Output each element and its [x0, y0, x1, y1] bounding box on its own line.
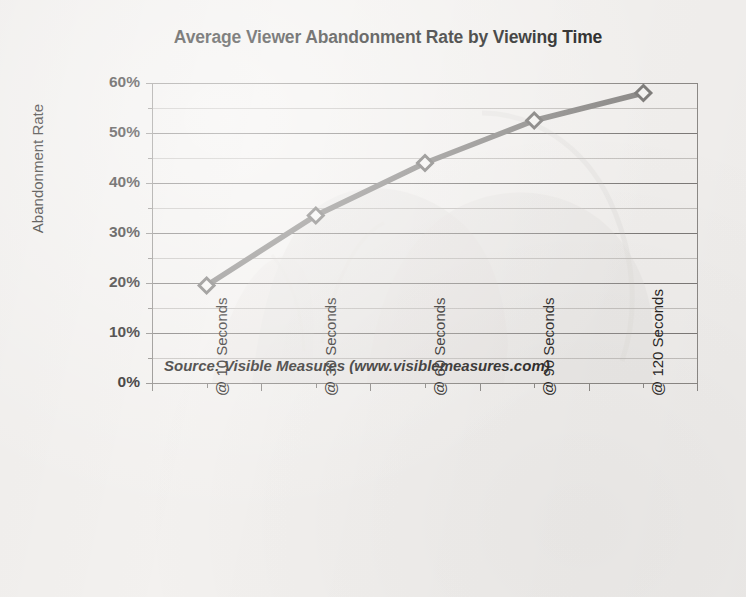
data-point-marker — [527, 113, 542, 128]
series-polyline — [207, 93, 644, 286]
y-axis-tick-label: 20% — [78, 273, 140, 291]
x-axis-tick-label: @ 10 Seconds — [213, 246, 230, 396]
x-axis-tick-mark — [370, 383, 371, 391]
x-axis-tick-label: @ 30 Seconds — [322, 246, 339, 396]
chart-container: Average Viewer Abandonment Rate by Viewi… — [0, 0, 746, 597]
x-axis-tick-mark — [152, 383, 153, 391]
y-axis-tick-label: 60% — [78, 73, 140, 91]
x-axis-minor-tick-mark — [534, 383, 535, 388]
data-point-marker — [636, 86, 651, 101]
y-axis-tick-label: 30% — [78, 223, 140, 241]
x-axis-tick-mark — [480, 383, 481, 391]
y-axis-tick-label: 0% — [78, 373, 140, 391]
data-series-line — [152, 83, 698, 383]
x-axis-tick-label: @ 120 Seconds — [649, 246, 666, 396]
x-axis-tick-mark — [697, 383, 698, 391]
series-markers — [199, 86, 651, 294]
x-axis-minor-tick-mark — [643, 383, 644, 388]
y-axis-tick-label: 10% — [78, 323, 140, 341]
y-axis-tick-labels: 60%50%40%30%20%10%0% — [78, 0, 140, 597]
y-axis-tick-label: 50% — [78, 123, 140, 141]
y-axis-title: Abandonment Rate — [29, 64, 46, 274]
x-axis-minor-tick-mark — [425, 383, 426, 388]
x-axis-minor-tick-mark — [207, 383, 208, 388]
x-axis-tick-mark — [261, 383, 262, 391]
x-axis-tick-mark — [589, 383, 590, 391]
y-axis-tick-label: 40% — [78, 173, 140, 191]
x-axis-minor-tick-mark — [316, 383, 317, 388]
x-axis-tick-label: @ 60 Seconds — [431, 246, 448, 396]
x-axis-tick-label: @ 90 Seconds — [540, 246, 557, 396]
plot-area — [152, 83, 698, 383]
